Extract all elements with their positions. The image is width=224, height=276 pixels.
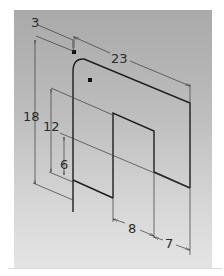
dim-corner-radius: 3 [31,15,39,30]
dim-width-top: 23 [111,51,128,66]
dim-height-total: 18 [23,109,40,124]
dim-notch-width: 8 [128,221,136,236]
dim-height-mid: 12 [43,119,60,134]
center-marker [88,78,92,82]
technical-drawing: 3 23 18 12 6 8 7 [0,0,224,276]
dim-right-width: 7 [165,236,173,251]
dim-height-low: 6 [60,157,68,172]
